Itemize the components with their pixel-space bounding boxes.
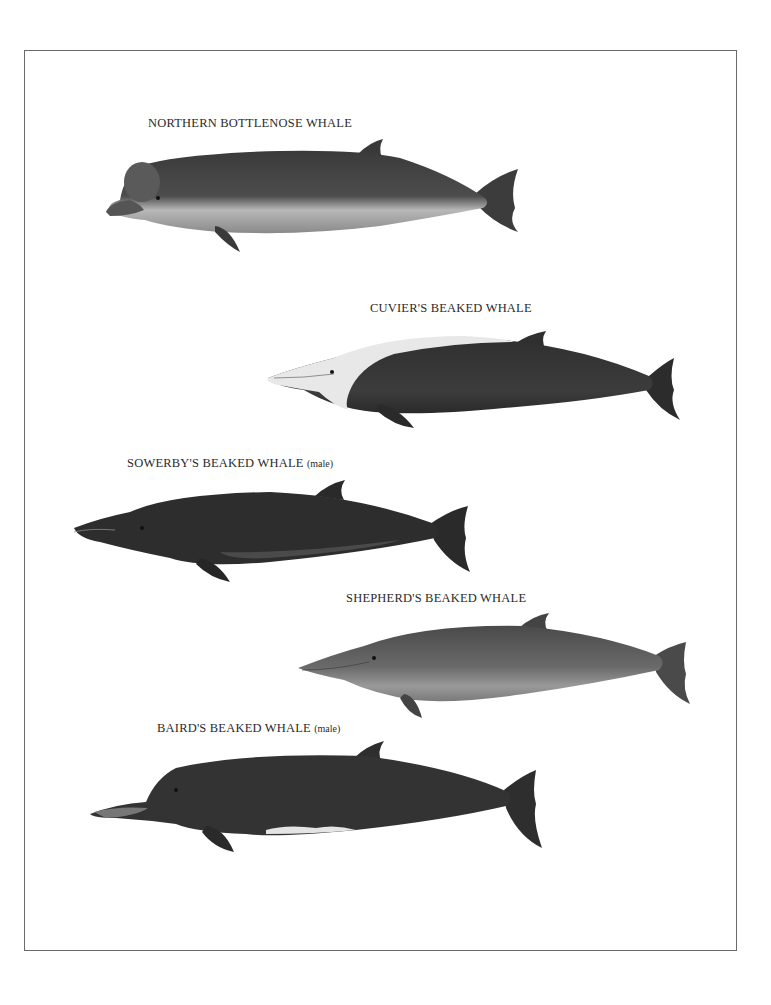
label-northern-bottlenose-whale: NORTHERN BOTTLENOSE WHALE bbox=[148, 116, 352, 131]
whale-name: SOWERBY'S BEAKED WHALE bbox=[127, 456, 304, 470]
label-sowerbys-beaked-whale: SOWERBY'S BEAKED WHALE (male) bbox=[127, 456, 333, 471]
label-bairds-beaked-whale: BAIRD'S BEAKED WHALE (male) bbox=[157, 721, 340, 736]
whale-name: SHEPHERD'S BEAKED WHALE bbox=[346, 591, 526, 605]
northern-bottlenose-whale-illustration bbox=[100, 136, 525, 258]
whale-qualifier: (male) bbox=[314, 723, 340, 734]
whale-name: CUVIER'S BEAKED WHALE bbox=[370, 301, 532, 315]
shepherds-beaked-whale-illustration bbox=[294, 610, 694, 722]
cuviers-beaked-whale-illustration bbox=[264, 328, 684, 432]
whale-name: NORTHERN BOTTLENOSE WHALE bbox=[148, 116, 352, 130]
label-shepherds-beaked-whale: SHEPHERD'S BEAKED WHALE bbox=[346, 591, 526, 606]
whale-qualifier: (male) bbox=[307, 458, 333, 469]
whale-name: BAIRD'S BEAKED WHALE bbox=[157, 721, 311, 735]
sowerbys-beaked-whale-illustration bbox=[70, 478, 475, 588]
bairds-beaked-whale-illustration bbox=[86, 738, 546, 862]
label-cuviers-beaked-whale: CUVIER'S BEAKED WHALE bbox=[370, 301, 532, 316]
